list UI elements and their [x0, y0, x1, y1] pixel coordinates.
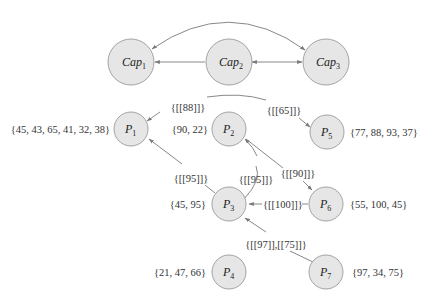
- set-label-p1: {45, 43, 65, 41, 32, 38}: [11, 124, 110, 135]
- edge-p7-to-p3-tail: [290, 251, 313, 262]
- edge-65-to-p5: [299, 118, 310, 127]
- set-label-p5: {77, 88, 93, 37}: [350, 127, 418, 138]
- node-cap1[interactable]: Cap1: [108, 39, 154, 85]
- edge-arc-88-65: [207, 95, 266, 100]
- node-cap2[interactable]: Cap2: [206, 39, 252, 85]
- set-label-p7: {97, 34, 75}: [352, 267, 404, 278]
- edge-p2-to-p6-head: [303, 181, 312, 190]
- set-label-p4: {21, 47, 66}: [154, 267, 206, 278]
- capability-process-graph: Cap1 Cap2 Cap3 P1 P2 P5 P3 P6 P4 P7 {45,…: [0, 0, 423, 306]
- node-p1[interactable]: P1: [114, 112, 148, 146]
- node-p6[interactable]: P6: [309, 187, 343, 221]
- edge-label-100: {[[100]]}: [263, 199, 303, 210]
- edge-p7-to-p3: [245, 218, 266, 232]
- node-p5[interactable]: P5: [310, 115, 344, 149]
- node-p4[interactable]: P4: [212, 255, 246, 289]
- node-cap3[interactable]: Cap3: [303, 39, 349, 85]
- edge-label-95-left: {[[95]]}: [174, 173, 209, 184]
- edge-p3-to-p1-tail: [205, 185, 215, 193]
- edge-label-90: {[[90]]}: [281, 168, 316, 179]
- node-p7[interactable]: P7: [309, 255, 343, 289]
- edge-label-65: {[[65]]}: [267, 105, 302, 116]
- edge-label-95-right: {[[95]]}: [239, 174, 274, 185]
- set-label-p6: {55, 100, 45}: [350, 199, 407, 210]
- node-p3[interactable]: P3: [212, 187, 246, 221]
- edge-label-88: {[[88]]}: [171, 102, 206, 113]
- edge-p2-to-p6: [246, 139, 283, 168]
- edge-p3-to-p1: [149, 139, 182, 164]
- node-p2[interactable]: P2: [212, 112, 246, 146]
- edge-p3-to-p2-head: [245, 139, 257, 156]
- edge-88-to-p1: [147, 112, 160, 121]
- set-label-p2: {90, 22}: [172, 124, 208, 135]
- set-label-p3: {45, 95}: [170, 199, 206, 210]
- edge-label-97-75: {[[97]],[[75]]}: [245, 239, 307, 250]
